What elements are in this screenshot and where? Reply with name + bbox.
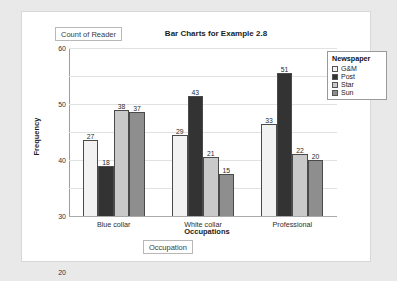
- y-axis-label: Frequency: [32, 107, 41, 167]
- bar[interactable]: 22: [292, 154, 308, 216]
- legend-item[interactable]: Star: [332, 81, 382, 88]
- legend-swatch-icon: [332, 82, 338, 88]
- bar[interactable]: 38: [114, 110, 130, 216]
- bar[interactable]: 18: [98, 166, 114, 216]
- y-tick-label: 30: [58, 213, 66, 220]
- y-tick-label: 40: [58, 157, 66, 164]
- legend-label: G&M: [341, 65, 357, 72]
- bar-value-label: 22: [296, 147, 304, 154]
- legend-swatch-icon: [332, 90, 338, 96]
- bar-value-label: 20: [312, 153, 320, 160]
- bar[interactable]: 15: [219, 174, 235, 216]
- y-tick-label: 20: [58, 269, 66, 276]
- bar[interactable]: 37: [129, 112, 145, 216]
- bar-value-label: 15: [222, 167, 230, 174]
- bar-groups: 27183837Blue collar29432115White collar3…: [69, 48, 337, 216]
- bar[interactable]: 27: [83, 140, 99, 216]
- bar-value-label: 37: [133, 105, 141, 112]
- legend-items: G&MPostStarSun: [332, 65, 382, 96]
- bar-value-label: 51: [281, 66, 289, 73]
- bar-group: 27183837Blue collar: [83, 48, 145, 216]
- bar-value-label: 43: [191, 89, 199, 96]
- legend-item[interactable]: Post: [332, 73, 382, 80]
- legend-item[interactable]: G&M: [332, 65, 382, 72]
- x-axis-label: Occupations: [62, 227, 352, 236]
- bar[interactable]: 29: [172, 135, 188, 216]
- count-of-reader-button[interactable]: Count of Reader: [55, 27, 122, 41]
- legend-label: Post: [341, 73, 355, 80]
- bar[interactable]: 43: [188, 96, 204, 216]
- bar[interactable]: 33: [261, 124, 277, 216]
- legend-title: Newspaper: [332, 54, 382, 63]
- bar-value-label: 33: [265, 117, 273, 124]
- bar[interactable]: 20: [308, 160, 324, 216]
- bar[interactable]: 21: [203, 157, 219, 216]
- y-tick-label: 50: [58, 101, 66, 108]
- bar-group: 33512220Professional: [261, 48, 323, 216]
- legend-label: Star: [341, 81, 354, 88]
- legend-label: Sun: [341, 89, 353, 96]
- legend-item[interactable]: Sun: [332, 89, 382, 96]
- plot-area: 0102030405060 27183837Blue collar2943211…: [69, 48, 337, 216]
- chart-card: Count of Reader Bar Charts for Example 2…: [21, 11, 371, 262]
- y-tick-label: 60: [58, 45, 66, 52]
- bar-value-label: 18: [102, 159, 110, 166]
- legend: Newspaper G&MPostStarSun: [327, 51, 387, 100]
- legend-swatch-icon: [332, 74, 338, 80]
- occupation-button[interactable]: Occupation: [143, 240, 193, 254]
- bar-group: 29432115White collar: [172, 48, 234, 216]
- bar-value-label: 38: [118, 103, 126, 110]
- bar-value-label: 21: [207, 150, 215, 157]
- bar-value-label: 27: [87, 133, 95, 140]
- legend-swatch-icon: [332, 66, 338, 72]
- chart-title: Bar Charts for Example 2.8: [126, 29, 306, 38]
- gridline-0: 0: [69, 216, 337, 217]
- bar[interactable]: 51: [277, 73, 293, 216]
- bar-value-label: 29: [176, 128, 184, 135]
